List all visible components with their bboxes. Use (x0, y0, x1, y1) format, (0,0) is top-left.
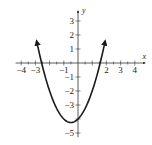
x-tick-label: 2 (104, 65, 109, 75)
parabola-chart: −4−3−1234321−1−2−3−5 x y (0, 0, 152, 145)
x-axis-label: x (142, 52, 147, 61)
x-tick-label: −4 (16, 65, 26, 75)
y-tick-label: −5 (64, 128, 74, 138)
y-tick-label: −2 (64, 86, 74, 96)
x-tick-label: −3 (31, 65, 41, 75)
y-tick-label: 2 (70, 30, 75, 40)
y-tick-label: 1 (70, 44, 75, 54)
x-tick-label: 3 (118, 65, 123, 75)
y-tick-label: −3 (64, 100, 74, 110)
y-tick-label: 3 (70, 16, 75, 26)
x-tick-label: 4 (133, 65, 138, 75)
y-tick-label: −1 (64, 72, 74, 82)
y-axis-label: y (81, 6, 86, 15)
